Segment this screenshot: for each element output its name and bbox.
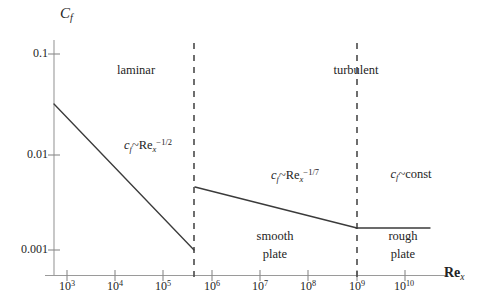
x-axis-title: Rex <box>444 266 465 282</box>
x-tick-label: 105 <box>141 280 185 292</box>
x-tick-label: 107 <box>238 280 282 292</box>
region-label-rough-plate-line2: plate <box>363 248 443 261</box>
x-tick-mantissa: 10 <box>107 279 119 293</box>
x-tick-mantissa: 10 <box>204 279 216 293</box>
region-label-rough-plate: rough plate <box>363 230 443 260</box>
y-tick-label: 0.01 <box>2 148 48 160</box>
x-tick-exponent: 6 <box>216 279 220 288</box>
plot-layer <box>0 0 487 307</box>
formula-laminar: cf~Rex−1/2 <box>98 138 198 153</box>
x-tick-exponent: 7 <box>264 279 268 288</box>
friction-coefficient-chart: Cf Rex 0.1 0.01 0.001 103 104 105 106 10… <box>0 0 487 307</box>
formula-rough-rel: ~const <box>398 167 431 181</box>
x-tick-label: 108 <box>286 280 330 292</box>
x-tick-exponent: 8 <box>312 279 316 288</box>
x-tick-exponent: 9 <box>361 279 365 288</box>
x-tick-exponent: 5 <box>167 279 171 288</box>
x-tick-mantissa: 10 <box>349 279 361 293</box>
y-tick-label: 0.001 <box>2 243 48 255</box>
x-axis-title-main: Re <box>444 265 460 280</box>
x-tick-label: 106 <box>190 280 234 292</box>
x-tick-mantissa: 10 <box>300 279 312 293</box>
curve-turbulent-smooth <box>195 187 357 228</box>
x-tick-mantissa: 10 <box>155 279 167 293</box>
x-tick-label: 1010 <box>382 280 426 292</box>
region-label-rough-plate-line1: rough <box>363 230 443 243</box>
x-axis-title-sub: x <box>460 272 464 282</box>
formula-smooth-rel: ~Re <box>279 168 300 182</box>
x-tick-exponent: 3 <box>71 279 75 288</box>
formula-laminar-exponent: −1/2 <box>156 137 172 147</box>
region-label-smooth-plate-line2: plate <box>230 248 320 261</box>
y-axis-title-sub: f <box>70 12 73 23</box>
region-label-smooth-plate-line1: smooth <box>230 230 320 243</box>
x-tick-label: 109 <box>335 280 379 292</box>
region-label-laminar: laminar <box>86 64 186 77</box>
x-tick-exponent: 10 <box>406 279 414 288</box>
x-tick-label: 103 <box>45 280 89 292</box>
formula-laminar-rel: ~Re <box>132 138 153 152</box>
y-axis-title-main: C <box>60 5 70 21</box>
region-label-smooth-plate: smooth plate <box>230 230 320 260</box>
y-tick-label: 0.1 <box>2 47 48 59</box>
y-axis-title: Cf <box>60 6 73 23</box>
x-tick-mantissa: 10 <box>394 279 406 293</box>
x-tick-exponent: 4 <box>119 279 123 288</box>
x-tick-mantissa: 10 <box>59 279 71 293</box>
region-label-turbulent: turbulent <box>306 64 406 77</box>
x-tick-label: 104 <box>93 280 137 292</box>
formula-smooth-plate: cf~Rex−1/7 <box>240 168 350 183</box>
formula-smooth-exponent: −1/7 <box>303 167 319 177</box>
formula-rough-plate: cf~const <box>366 168 456 182</box>
curve-laminar <box>54 104 194 250</box>
x-tick-mantissa: 10 <box>252 279 264 293</box>
